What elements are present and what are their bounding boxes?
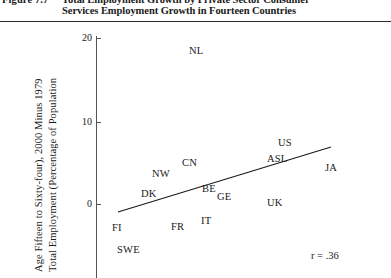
y-tick-mark-10 xyxy=(96,122,101,123)
y-tick-label-20: 20 xyxy=(66,32,92,43)
data-point-fr: FR xyxy=(171,221,184,232)
data-point-ja: JA xyxy=(325,162,337,173)
data-point-us: US xyxy=(278,137,292,148)
data-point-be: BE xyxy=(202,183,216,194)
data-point-it: IT xyxy=(201,215,211,226)
data-point-ge: GE xyxy=(217,191,231,202)
data-point-fi: FI xyxy=(112,222,122,233)
y-axis-title-line-2: Age Fifteen to Sixty-four), 2000 Minus 1… xyxy=(33,78,44,272)
y-tick-label-10: 10 xyxy=(66,116,92,127)
y-tick-mark-0 xyxy=(96,204,101,205)
y-axis-spine xyxy=(96,36,97,278)
data-point-cn: CN xyxy=(182,157,197,168)
data-point-asl: ASL xyxy=(267,153,287,164)
data-point-dk: DK xyxy=(141,188,157,199)
y-axis-title: Total Employment (Percentage of Populati… xyxy=(0,0,60,278)
figure-caption-line-2: Services Employment Growth in Fourteen C… xyxy=(62,5,296,16)
figure-container: Figure 7.7 Total Employment Growth by Pr… xyxy=(0,0,391,278)
data-point-swe: SWE xyxy=(117,244,140,255)
data-point-nl: NL xyxy=(189,45,203,56)
y-tick-label-0: 0 xyxy=(66,198,92,209)
data-point-nw: NW xyxy=(152,168,170,179)
y-tick-mark-20 xyxy=(96,38,101,39)
data-point-uk: UK xyxy=(267,197,283,208)
correlation-annotation: r = .36 xyxy=(311,250,339,261)
y-axis-title-line-1: Total Employment (Percentage of Populati… xyxy=(47,78,58,272)
